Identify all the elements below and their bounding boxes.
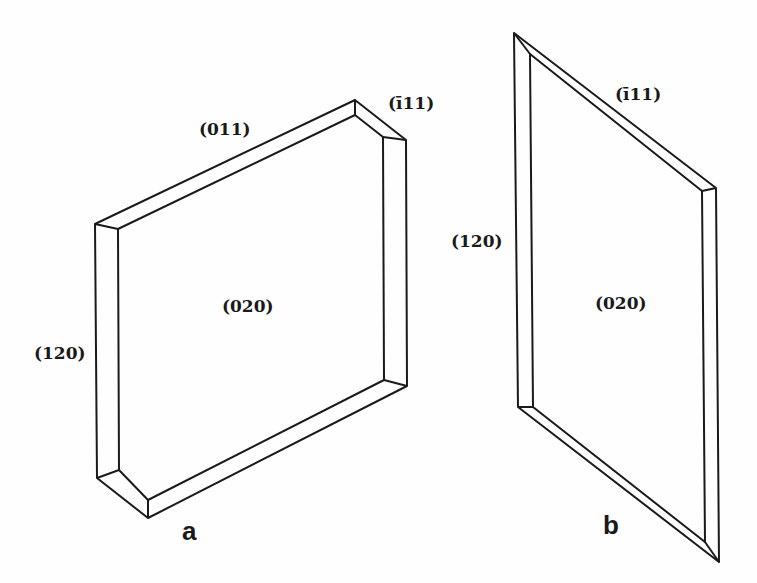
face-label-a-020: (020)	[222, 296, 274, 316]
face-label-b-120: (120)	[451, 231, 503, 251]
panel-label-a: a	[182, 516, 196, 547]
face-label-a-120: (120)	[34, 343, 86, 363]
panel-label-b: b	[603, 510, 619, 541]
face-label-a-111: (ī11)	[388, 93, 434, 113]
face-label-a-011: (011)	[199, 119, 251, 139]
face-label-b-020: (020)	[595, 293, 647, 313]
face-label-b-111: (ī11)	[615, 84, 661, 104]
crystal-diagram: (011) (ī11) (120) (020) a (ī11) (120) (0…	[0, 0, 757, 583]
